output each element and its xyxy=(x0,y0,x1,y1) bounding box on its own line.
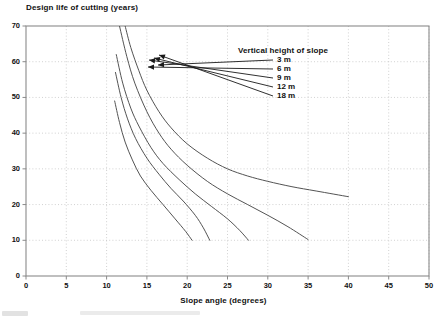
y-axis-tick-label: 60 xyxy=(0,57,20,66)
x-axis-tick-label: 10 xyxy=(95,281,119,290)
legend-item-6-m: 6 m xyxy=(277,64,291,73)
legend-item-9-m: 9 m xyxy=(277,73,291,82)
x-axis-tick-label: 0 xyxy=(14,281,38,290)
annotation-arrowhead-6-m xyxy=(148,65,154,70)
legend-item-3-m: 3 m xyxy=(277,55,291,64)
chart-figure: Design life of cutting (years) 706050403… xyxy=(0,0,447,319)
x-axis-tick-label: 25 xyxy=(216,281,240,290)
x-axis-tick-label: 35 xyxy=(296,281,320,290)
x-axis-tick-label: 45 xyxy=(377,281,401,290)
x-axis-tick-label: 15 xyxy=(135,281,159,290)
y-axis-tick-label: 20 xyxy=(0,200,20,209)
x-axis-tick-label: 20 xyxy=(175,281,199,290)
legend-title: Vertical height of slope xyxy=(238,46,328,55)
x-axis-tick-label: 5 xyxy=(54,281,78,290)
y-axis-tick-label: 50 xyxy=(0,92,20,101)
y-axis-tick-label: 30 xyxy=(0,164,20,173)
legend-item-18-m: 18 m xyxy=(277,91,295,100)
x-axis-tick-label: 30 xyxy=(256,281,280,290)
x-axis-title: Slope angle (degrees) xyxy=(0,296,447,305)
annotation-arrowhead-9-m xyxy=(149,58,155,63)
data-curve-9-m xyxy=(116,55,248,241)
y-axis-tick-label: 0 xyxy=(0,271,20,280)
scan-artifact-left xyxy=(2,311,28,316)
annotation-arrowhead-3-m xyxy=(158,62,164,67)
y-axis-tick-label: 40 xyxy=(0,128,20,137)
scan-artifact-center xyxy=(80,311,200,315)
y-axis-tick-label: 70 xyxy=(0,21,20,30)
data-curve-18-m xyxy=(115,101,192,240)
y-axis-tick-label: 10 xyxy=(0,235,20,244)
chart-canvas xyxy=(0,0,447,319)
legend-item-12-m: 12 m xyxy=(277,82,295,91)
x-axis-tick-label: 40 xyxy=(336,281,360,290)
x-axis-tick-label: 50 xyxy=(417,281,441,290)
